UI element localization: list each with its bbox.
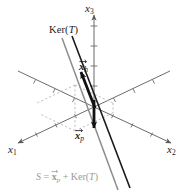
guide-h-b xyxy=(37,85,75,103)
vector-label-xp: x p xyxy=(75,131,84,143)
kernel-label-main: Ker( xyxy=(49,24,69,35)
kernel-label: Ker(T) xyxy=(49,25,78,36)
guide-p-b xyxy=(40,114,75,131)
axis-label-x1-sub: 1 xyxy=(13,148,17,157)
axis-label-x2-sub: 2 xyxy=(172,148,176,157)
axis-label-x1: x1 xyxy=(8,144,17,157)
kernel-label-close: ) xyxy=(75,24,79,35)
caption-arrow-overbar xyxy=(51,169,58,173)
caption-equals: = xyxy=(41,171,52,182)
dashed-guides xyxy=(37,85,113,131)
vector-xh-symbol-wrap: x xyxy=(79,62,84,73)
figure-canvas xyxy=(0,0,189,194)
caption-plus: + Ker( xyxy=(60,171,89,182)
vector-xp-sub: p xyxy=(80,134,84,143)
caption-vector-wrap: x xyxy=(52,172,57,182)
vector-xp-symbol: x xyxy=(75,130,80,141)
vector-xp-symbol-wrap: x xyxy=(75,131,80,142)
vector-xh-symbol: x xyxy=(79,61,84,72)
figure-caption: S = x p + Ker(T) xyxy=(36,172,98,184)
axis-label-x3-sub: 3 xyxy=(90,7,94,16)
kernel-line xyxy=(72,36,130,188)
axis-x1-line-back xyxy=(94,71,170,107)
caption-vector-symbol: x xyxy=(52,171,57,182)
kernel-translate-figure: x1 x2 x3 Ker(T) x h x p S = xyxy=(0,0,189,194)
axis-label-x2: x2 xyxy=(167,144,176,157)
axis-label-x3: x3 xyxy=(85,3,94,16)
caption-close: ) xyxy=(95,171,98,182)
vector-label-xh: x h xyxy=(79,62,88,74)
vector-xh-sub: h xyxy=(84,65,88,74)
